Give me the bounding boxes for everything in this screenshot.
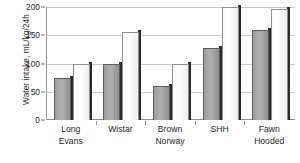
bar-group [54,7,90,120]
category-label-line: Hooded [244,136,294,148]
category-label-line: Norway [145,136,195,148]
bar[interactable] [54,78,71,120]
bar[interactable] [203,48,220,120]
bar-group [153,7,189,120]
bar-group [103,7,139,120]
y-axis-tick-mark [41,7,45,8]
x-axis-category-labels: LongEvansWistarBrownNorwaySHHFawnHooded [46,124,294,163]
category-label-line: Brown [145,124,195,136]
y-axis-tick-label: 100 [14,59,40,67]
bar[interactable] [252,30,269,120]
y-axis-tick-label: 150 [14,31,40,39]
bar[interactable] [122,32,139,120]
x-axis-category-label: BrownNorway [145,124,195,147]
y-axis-tick-mark [41,35,45,36]
bar[interactable] [271,9,288,120]
bar[interactable] [222,7,239,120]
y-axis-tick-mark [41,63,45,64]
y-axis-tick-mark [41,120,45,121]
y-axis-tick-labels: 200150100500 [14,0,40,163]
bar[interactable] [103,64,120,121]
category-label-line: Long [46,124,96,136]
bar[interactable] [172,64,189,121]
x-axis-category-label: LongEvans [46,124,96,147]
category-label-line: Fawn [244,124,294,136]
bar-group [252,7,288,120]
bar[interactable] [73,64,90,121]
bars-layer [47,7,295,120]
y-axis-tick-label: 0 [14,116,40,124]
y-axis-tick-mark [41,91,45,92]
category-label-line: Wistar [96,124,146,136]
bar-chart: Water intake, mL/kg/24h 200150100500 Lon… [0,0,300,163]
plot-area [46,7,295,120]
category-label-line: Evans [46,136,96,148]
bar-group [203,7,239,120]
category-label-line: SHH [195,124,245,136]
y-axis-tick-label: 200 [14,3,40,11]
y-axis-tick-label: 50 [14,88,40,96]
x-axis-category-label: SHH [195,124,245,136]
bar[interactable] [153,86,170,120]
x-axis-category-label: Wistar [96,124,146,136]
x-axis-category-label: FawnHooded [244,124,294,147]
